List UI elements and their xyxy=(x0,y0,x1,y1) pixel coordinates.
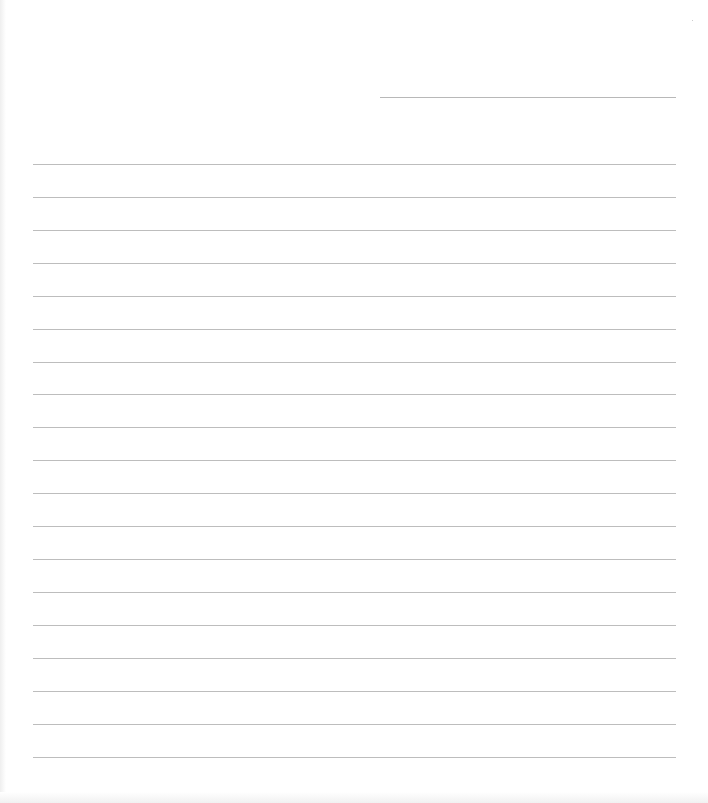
ruled-line xyxy=(33,394,676,395)
ruled-line xyxy=(33,658,676,659)
ruled-line xyxy=(33,592,676,593)
page-bottom-shadow xyxy=(0,792,708,803)
ruled-line xyxy=(33,526,676,527)
ruled-line xyxy=(33,724,676,725)
lined-page xyxy=(0,0,708,803)
ruled-line xyxy=(33,427,676,428)
page-edge-shadow xyxy=(0,0,6,803)
ruled-line xyxy=(33,362,676,363)
ruled-line xyxy=(33,164,676,165)
ruled-line xyxy=(33,296,676,297)
paper-speck xyxy=(692,20,693,21)
ruled-line xyxy=(33,263,676,264)
ruled-line xyxy=(33,460,676,461)
ruled-line xyxy=(33,559,676,560)
header-date-line xyxy=(380,97,676,98)
ruled-line xyxy=(33,230,676,231)
ruled-line xyxy=(33,625,676,626)
ruled-line xyxy=(33,691,676,692)
ruled-line xyxy=(33,757,676,758)
ruled-line xyxy=(33,493,676,494)
ruled-line xyxy=(33,197,676,198)
ruled-line xyxy=(33,329,676,330)
